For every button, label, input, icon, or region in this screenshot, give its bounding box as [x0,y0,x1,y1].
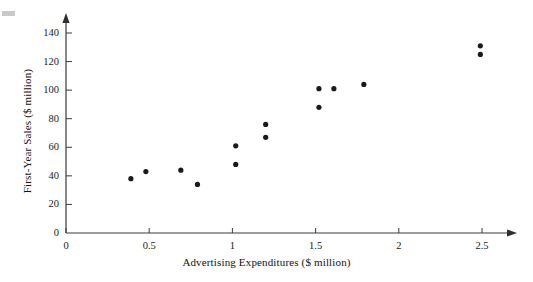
data-point [128,176,133,181]
data-point [263,122,268,127]
data-point [143,169,148,174]
x-tick-label: 2 [396,241,401,252]
x-tick-label: 1.5 [309,241,322,252]
data-point [478,43,483,48]
plot-canvas [0,0,533,282]
x-tick-label: 1 [230,241,235,252]
data-point [263,135,268,140]
data-point [331,86,336,91]
data-point [178,168,183,173]
data-point [361,82,366,87]
x-axis-title: Advertising Expenditures ($ million) [0,256,533,268]
data-points-group [128,43,483,187]
axes-group [66,22,508,233]
data-point [233,143,238,148]
data-point [233,162,238,167]
y-tick-label: 0 [26,228,59,239]
data-point [195,182,200,187]
data-point [316,86,321,91]
x-tick-label: 0 [63,241,68,252]
axis-ticks [66,33,482,233]
x-tick-label: 0.5 [143,241,156,252]
data-point [478,52,483,57]
data-point [316,105,321,110]
x-tick-label: 2.5 [475,241,488,252]
y-axis-title: First-Year Sales ($ million) [21,51,33,211]
scatter-plot-figure: 02040608010012014000.511.522.5 Advertisi… [0,0,533,282]
y-tick-label: 140 [26,28,59,39]
